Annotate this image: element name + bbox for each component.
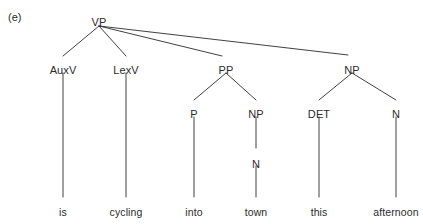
tree-edge-vp-lexv bbox=[99, 26, 126, 56]
syntax-tree-figure: (e) VPAuxVLexVPPNPPNPDETNNiscyclingintot… bbox=[0, 0, 423, 224]
tree-node-p: P bbox=[190, 108, 197, 120]
tree-edge-pp-p bbox=[194, 73, 226, 100]
tree-edge-np2-n2 bbox=[352, 73, 396, 100]
tree-terminal-word-town: town bbox=[245, 206, 268, 218]
tree-terminal-word-afternoon: afternoon bbox=[373, 206, 418, 218]
tree-node-lexv: LexV bbox=[113, 64, 138, 76]
tree-terminal-word-this: this bbox=[311, 206, 328, 218]
tree-node-pp: PP bbox=[219, 64, 234, 76]
tree-node-np2: NP bbox=[344, 64, 359, 76]
tree-terminal-word-cycling: cycling bbox=[110, 206, 143, 218]
tree-edge-pp-np1 bbox=[226, 73, 256, 100]
tree-node-np1: NP bbox=[248, 108, 263, 120]
tree-node-vp-root: VP bbox=[92, 16, 107, 28]
tree-edge-np2-det bbox=[319, 73, 352, 100]
tree-edge-vp-np2 bbox=[99, 26, 348, 55]
tree-edge-vp-pp bbox=[99, 26, 222, 56]
tree-node-auxv: AuxV bbox=[50, 64, 77, 76]
tree-terminal-word-is: is bbox=[59, 206, 67, 218]
tree-branch-lines bbox=[0, 0, 423, 224]
tree-node-det: DET bbox=[308, 108, 330, 120]
tree-node-n2: N bbox=[392, 108, 400, 120]
tree-terminal-word-into: into bbox=[185, 206, 202, 218]
tree-node-n1: N bbox=[252, 158, 260, 170]
tree-edge-vp-auxv bbox=[63, 26, 99, 56]
